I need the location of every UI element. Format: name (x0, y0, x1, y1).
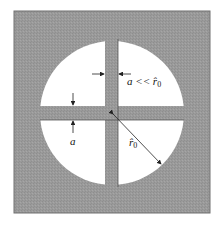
aperture-diagram: a << r̂0 a r̂0 (0, 0, 219, 225)
horizontal-support-bar (40, 106, 184, 120)
label-a-much-less-r0: a << r̂0 (127, 75, 161, 89)
label-a: a (70, 135, 76, 147)
